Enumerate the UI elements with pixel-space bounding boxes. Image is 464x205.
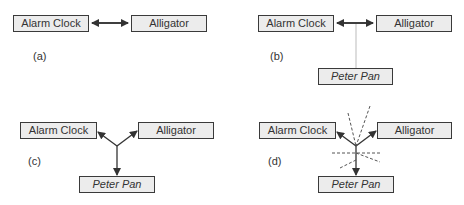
panel-b-label: (b) <box>270 50 283 62</box>
panel-b-alarm-clock-node: Alarm Clock <box>258 15 334 32</box>
panel-d-label: (d) <box>268 155 281 167</box>
panel-d-alligator-node: Alligator <box>377 122 452 139</box>
panel-b-alligator-node: Alligator <box>376 15 452 32</box>
panel-d-alarm-clock-node: Alarm Clock <box>259 122 336 139</box>
panel-a-alarm-clock-node: Alarm Clock <box>13 15 89 32</box>
panel-c-arrows <box>98 131 137 175</box>
panel-c-alligator-node: Alligator <box>138 122 214 139</box>
panel-b-arrow <box>337 23 373 68</box>
panel-a-alligator-node: Alligator <box>131 15 207 32</box>
panel-a-label: (a) <box>33 50 46 62</box>
panel-c-label: (c) <box>28 155 41 167</box>
panel-c-peter-pan-node: Peter Pan <box>79 176 155 193</box>
panel-b-peter-pan-node: Peter Pan <box>318 68 393 85</box>
panel-d-peter-pan-node: Peter Pan <box>318 176 394 193</box>
panel-c-alarm-clock-node: Alarm Clock <box>20 122 97 139</box>
